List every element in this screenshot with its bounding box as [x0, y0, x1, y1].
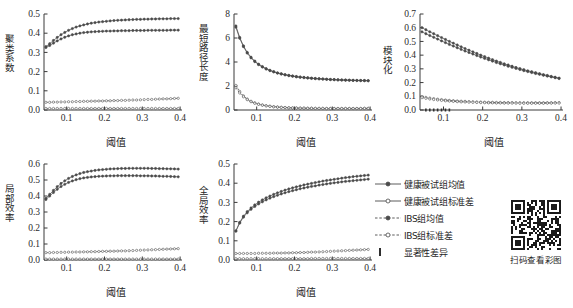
svg-text:0.3: 0.3: [136, 263, 148, 273]
plot-shortest-path-length: 024680.10.20.30.4: [190, 6, 380, 136]
svg-text:0.4: 0.4: [174, 113, 186, 123]
legend-label: IBS组标准差: [404, 229, 452, 242]
svg-text:0.2: 0.2: [404, 78, 416, 88]
svg-text:0.7: 0.7: [404, 9, 416, 19]
legend-label: 显著性差异: [404, 246, 448, 259]
svg-text:0.2: 0.2: [477, 113, 489, 123]
svg-text:0.6: 0.6: [404, 23, 416, 33]
ylabel-global-efficiency: 全局效率: [198, 186, 208, 268]
plot-clustering-coefficient: 0.00.10.20.30.40.50.10.20.30.4: [0, 6, 190, 136]
svg-text:0.0: 0.0: [404, 105, 416, 115]
svg-text:6: 6: [225, 33, 230, 43]
qr-caption: 扫码查看彩图: [503, 253, 569, 265]
panel-local-efficiency: 局部效率 0.00.10.20.30.40.50.60.10.20.30.4 阈…: [0, 156, 190, 308]
svg-text:0.1: 0.1: [251, 113, 263, 123]
svg-text:8: 8: [225, 9, 230, 19]
xlabel-global-efficiency: 阈值: [296, 284, 316, 299]
figure-container: 聚类系数 0.00.10.20.30.40.50.10.20.30.4 阈值 最…: [0, 0, 573, 308]
svg-text:0.3: 0.3: [218, 198, 230, 208]
legend: 健康被试组均值 健康被试组标准差 IBS组均值 IBS组标准差 显著性差异: [374, 176, 499, 261]
xlabel-modularity: 阈值: [484, 134, 504, 149]
svg-text:0.2: 0.2: [289, 113, 301, 123]
svg-text:0.1: 0.1: [218, 236, 230, 246]
ylabel-modularity: 模块化: [382, 46, 392, 106]
svg-text:0.0: 0.0: [28, 105, 40, 115]
svg-text:0.4: 0.4: [555, 113, 567, 123]
svg-text:0.2: 0.2: [28, 67, 40, 77]
legend-item-healthy-mean: 健康被试组均值: [374, 176, 499, 192]
svg-text:0.3: 0.3: [326, 113, 338, 123]
svg-text:0.6: 0.6: [28, 159, 40, 169]
qr-code-image: [511, 200, 561, 250]
panel-shortest-path-length: 最短路径长度 024680.10.20.30.4 阈值: [190, 6, 380, 156]
legend-swatch-solid-filled-circle: [374, 177, 404, 191]
xlabel-clustering-coefficient: 阈值: [106, 134, 126, 149]
svg-text:0.3: 0.3: [516, 113, 528, 123]
svg-text:0.4: 0.4: [364, 113, 376, 123]
svg-text:0.4: 0.4: [218, 178, 230, 188]
svg-text:0: 0: [225, 105, 230, 115]
svg-text:0.5: 0.5: [404, 37, 416, 47]
svg-text:4: 4: [225, 57, 230, 67]
svg-text:0.0: 0.0: [28, 255, 40, 265]
svg-text:2: 2: [225, 81, 230, 91]
svg-text:0.2: 0.2: [289, 263, 301, 273]
svg-text:0.5: 0.5: [28, 9, 40, 19]
svg-text:0.4: 0.4: [28, 28, 40, 38]
legend-swatch-solid-open-circle: [374, 194, 404, 208]
svg-text:0.4: 0.4: [364, 263, 376, 273]
svg-text:0.2: 0.2: [218, 217, 230, 227]
svg-text:0.2: 0.2: [99, 113, 111, 123]
plot-global-efficiency: 0.00.10.20.30.40.50.10.20.30.4: [190, 156, 380, 286]
svg-text:0.1: 0.1: [61, 113, 73, 123]
svg-text:0.3: 0.3: [28, 48, 40, 58]
svg-text:0.0: 0.0: [218, 255, 230, 265]
ylabel-shortest-path-length: 最短路径长度: [198, 24, 208, 130]
svg-text:0.2: 0.2: [28, 223, 40, 233]
legend-item-significance: 显著性差异: [374, 244, 499, 260]
legend-item-ibs-std: IBS组标准差: [374, 227, 499, 243]
svg-text:0.1: 0.1: [251, 263, 263, 273]
legend-swatch-dashed-filled-circle: [374, 211, 404, 225]
legend-item-healthy-std: 健康被试组标准差: [374, 193, 499, 209]
svg-text:0.3: 0.3: [136, 113, 148, 123]
svg-text:0.3: 0.3: [28, 207, 40, 217]
panel-modularity: 模块化 0.00.10.20.30.40.50.60.70.10.20.30.4…: [380, 6, 573, 156]
svg-text:0.3: 0.3: [404, 64, 416, 74]
plot-modularity: 0.00.10.20.30.40.50.60.70.10.20.30.4: [380, 6, 573, 136]
svg-text:0.5: 0.5: [218, 159, 230, 169]
xlabel-local-efficiency: 阈值: [106, 284, 126, 299]
svg-text:0.1: 0.1: [438, 113, 450, 123]
svg-text:0.3: 0.3: [326, 263, 338, 273]
legend-label: 健康被试组均值: [404, 178, 465, 191]
svg-text:0.4: 0.4: [404, 50, 416, 60]
legend-item-ibs-mean: IBS组均值: [374, 210, 499, 226]
xlabel-shortest-path-length: 阈值: [296, 134, 316, 149]
ylabel-local-efficiency: 局部效率: [4, 184, 14, 266]
svg-text:0.1: 0.1: [28, 239, 40, 249]
legend-label: IBS组均值: [404, 212, 444, 225]
legend-label: 健康被试组标准差: [404, 195, 474, 208]
legend-swatch-significance-marker: [374, 245, 404, 259]
svg-text:0.1: 0.1: [28, 86, 40, 96]
legend-swatch-dashed-open-circle: [374, 228, 404, 242]
panel-clustering-coefficient: 聚类系数 0.00.10.20.30.40.50.10.20.30.4 阈值: [0, 6, 190, 156]
qr-block: 扫码查看彩图: [503, 200, 569, 265]
ylabel-clustering-coefficient: 聚类系数: [4, 34, 14, 116]
panel-global-efficiency: 全局效率 0.00.10.20.30.40.50.10.20.30.4 阈值: [190, 156, 380, 308]
svg-text:0.4: 0.4: [28, 191, 40, 201]
svg-text:0.2: 0.2: [99, 263, 111, 273]
svg-text:0.4: 0.4: [174, 263, 186, 273]
svg-text:0.5: 0.5: [28, 175, 40, 185]
plot-local-efficiency: 0.00.10.20.30.40.50.60.10.20.30.4: [0, 156, 190, 286]
svg-text:0.1: 0.1: [61, 263, 73, 273]
svg-text:0.1: 0.1: [404, 91, 416, 101]
